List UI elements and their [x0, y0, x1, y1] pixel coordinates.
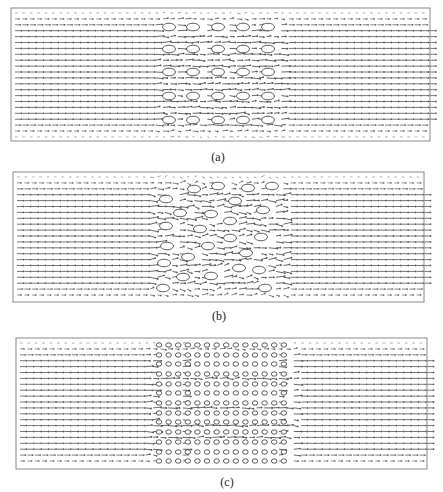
arrowhead: [23, 265, 25, 267]
arrowhead: [326, 217, 328, 219]
velocity-vector: [254, 177, 257, 178]
arrowhead: [287, 199, 289, 201]
arrowhead: [413, 95, 415, 97]
arrowhead: [198, 208, 200, 210]
arrowhead: [418, 372, 420, 374]
arrowhead: [329, 360, 331, 362]
arrowhead: [400, 265, 402, 267]
arrowhead: [94, 182, 96, 184]
arrowhead: [257, 182, 259, 184]
arrowhead: [102, 101, 104, 103]
arrowhead: [322, 18, 324, 20]
arrowhead: [388, 437, 390, 439]
arrowhead: [85, 401, 87, 403]
arrowhead: [190, 18, 192, 20]
arrowhead: [297, 377, 299, 379]
arrowhead: [21, 77, 23, 79]
arrowhead: [33, 401, 35, 403]
arrowhead: [119, 194, 121, 196]
arrowhead: [175, 294, 177, 296]
arrowhead: [362, 288, 364, 290]
arrowhead: [376, 118, 378, 120]
arrowhead: [396, 372, 398, 374]
arrowhead: [102, 36, 104, 38]
velocity-vector: [222, 60, 230, 61]
arrowhead: [82, 235, 84, 237]
arrowhead: [373, 413, 375, 415]
arrowhead: [67, 235, 69, 237]
obstacle-ellipse: [233, 430, 239, 434]
obstacle-ellipse: [175, 440, 181, 444]
arrowhead: [381, 389, 383, 391]
arrowhead: [87, 101, 89, 103]
arrowhead: [79, 24, 81, 26]
arrowhead: [52, 271, 54, 273]
arrowhead: [322, 425, 324, 427]
arrowhead: [71, 24, 73, 26]
arrowhead: [80, 71, 82, 73]
arrowhead: [322, 383, 324, 385]
arrowhead: [122, 360, 124, 362]
arrowhead: [287, 42, 289, 44]
arrowhead: [197, 77, 199, 79]
arrowhead: [72, 71, 74, 73]
arrowhead: [265, 225, 267, 227]
arrowhead: [182, 17, 184, 19]
arrowhead: [381, 407, 383, 409]
arrowhead: [90, 348, 92, 350]
arrowhead: [359, 401, 361, 403]
arrowhead: [119, 217, 121, 219]
arrowhead: [60, 217, 62, 219]
arrowhead: [146, 294, 148, 296]
arrowhead: [204, 54, 206, 56]
obstacle-ellipse: [156, 362, 162, 366]
arrowhead: [124, 65, 126, 67]
obstacle-ellipse: [156, 420, 162, 424]
arrowhead: [428, 48, 430, 50]
arrowhead: [59, 188, 61, 190]
arrowhead: [433, 407, 435, 409]
arrowhead: [361, 71, 363, 73]
arrowhead: [263, 181, 265, 183]
arrowhead: [338, 182, 340, 184]
arrowhead: [114, 130, 116, 132]
velocity-vector: [195, 201, 202, 202]
arrowhead: [92, 431, 94, 433]
arrowhead: [48, 378, 50, 380]
arrowhead: [139, 101, 141, 103]
obstacle-ellipse: [233, 459, 239, 463]
obstacle-ellipse: [204, 353, 210, 357]
arrowhead: [89, 241, 91, 243]
arrowhead: [272, 88, 274, 90]
arrowhead: [246, 221, 248, 223]
arrowhead: [128, 454, 130, 456]
arrowhead: [85, 395, 87, 397]
arrowhead: [189, 129, 191, 131]
arrowhead: [353, 294, 355, 296]
arrowhead: [302, 77, 304, 79]
arrowhead: [313, 354, 315, 356]
arrowhead: [75, 460, 77, 462]
arrowhead: [187, 269, 189, 271]
arrowhead: [102, 83, 104, 85]
arrowhead: [251, 243, 253, 245]
obstacle-ellipse: [262, 459, 268, 463]
arrowhead: [304, 259, 306, 261]
arrowhead: [224, 18, 226, 20]
arrowhead: [274, 267, 276, 269]
arrowhead: [197, 131, 199, 133]
arrowhead: [396, 360, 398, 362]
arrowhead: [167, 295, 169, 297]
arrowhead: [161, 42, 163, 44]
arrowhead: [149, 348, 151, 350]
arrowhead: [35, 95, 37, 97]
arrowhead: [174, 107, 176, 109]
arrowhead: [353, 24, 355, 26]
arrowhead: [60, 223, 62, 225]
arrowhead: [37, 253, 39, 255]
arrowhead: [251, 275, 253, 277]
arrowhead: [82, 276, 84, 278]
arrowhead: [425, 130, 427, 132]
arrowhead: [403, 395, 405, 397]
arrowhead: [33, 413, 35, 415]
